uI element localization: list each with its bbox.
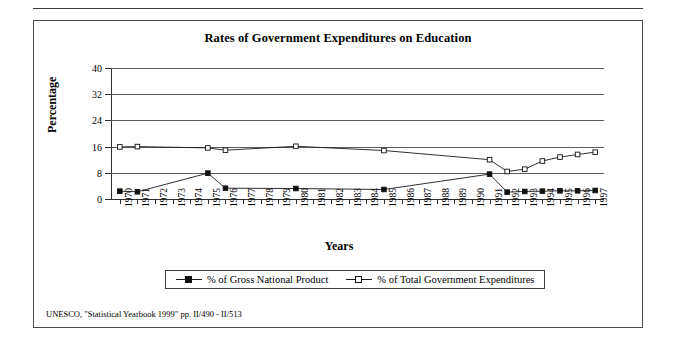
data-point-marker	[382, 148, 387, 153]
series-layer	[111, 68, 604, 199]
x-axis-tick	[437, 199, 438, 204]
x-axis-tick	[507, 199, 508, 204]
data-point-marker	[522, 189, 527, 194]
chart-legend: % of Gross National Product % of Total G…	[165, 270, 545, 289]
source-footnote: UNESCO, "Statistical Yearbook 1999" pp. …	[46, 309, 242, 319]
data-point-marker	[382, 187, 387, 192]
data-point-marker	[558, 189, 563, 194]
chart-title: Rates of Government Expenditures on Educ…	[34, 31, 642, 46]
x-axis-tick	[454, 199, 455, 204]
top-divider-rule	[33, 8, 643, 9]
x-axis-tick	[208, 199, 209, 204]
data-point-marker	[593, 188, 598, 193]
data-point-marker	[505, 169, 510, 174]
x-axis-tick	[225, 199, 226, 204]
x-axis-tick	[278, 199, 279, 204]
x-axis-tick	[525, 199, 526, 204]
data-point-marker	[522, 167, 527, 172]
data-point-marker	[118, 145, 123, 150]
data-point-marker	[294, 144, 299, 149]
y-axis-tick	[105, 199, 111, 200]
data-point-marker	[487, 172, 492, 177]
x-axis-tick	[296, 199, 297, 204]
y-axis-tick-label: 8	[97, 167, 102, 178]
open-square-marker-icon	[346, 275, 372, 284]
plot-area: 0816243240 19701971197219731974197519761…	[111, 68, 604, 199]
legend-label-total-gov-exp: % of Total Government Expenditures	[377, 274, 534, 285]
x-axis-tick	[120, 199, 121, 204]
x-axis-tick	[542, 199, 543, 204]
x-axis-tick	[595, 199, 596, 204]
data-point-marker	[294, 186, 299, 191]
data-point-marker	[575, 152, 580, 157]
x-axis-tick	[349, 199, 350, 204]
y-axis-tick-label: 24	[92, 115, 102, 126]
data-point-marker	[223, 186, 228, 191]
x-axis-tick	[419, 199, 420, 204]
legend-entry-total-gov-exp: % of Total Government Expenditures	[346, 274, 534, 285]
x-axis-tick	[173, 199, 174, 204]
x-axis-tick	[472, 199, 473, 204]
data-point-marker	[593, 150, 598, 155]
legend-entry-gnp: % of Gross National Product	[176, 274, 328, 285]
x-axis-tick	[243, 199, 244, 204]
x-axis-tick	[560, 199, 561, 204]
y-axis-tick-label: 32	[92, 89, 102, 100]
x-axis-tick	[366, 199, 367, 204]
data-point-marker	[487, 157, 492, 162]
data-point-marker	[118, 189, 123, 194]
data-point-marker	[206, 171, 211, 176]
figure-panel: Rates of Government Expenditures on Educ…	[33, 20, 643, 328]
x-axis-tick	[137, 199, 138, 204]
x-axis-tick	[402, 199, 403, 204]
data-point-marker	[540, 159, 545, 164]
x-axis-tick	[261, 199, 262, 204]
data-point-marker	[135, 144, 140, 149]
data-point-marker	[558, 155, 563, 160]
data-point-marker	[540, 189, 545, 194]
y-axis-title: Percentage	[45, 77, 60, 133]
data-point-marker	[575, 189, 580, 194]
x-axis-tick	[313, 199, 314, 204]
x-axis-tick	[384, 199, 385, 204]
x-axis-tick	[490, 199, 491, 204]
y-axis-tick-label: 16	[92, 141, 102, 152]
y-axis-tick-label: 40	[92, 63, 102, 74]
data-point-marker	[206, 146, 211, 151]
legend-label-gnp: % of Gross National Product	[207, 274, 328, 285]
data-point-marker	[223, 148, 228, 153]
x-axis-tick	[155, 199, 156, 204]
x-axis-tick	[331, 199, 332, 204]
x-axis-title: Years	[34, 239, 644, 254]
filled-square-marker-icon	[176, 275, 202, 284]
x-axis-tick	[190, 199, 191, 204]
y-axis-tick-label: 0	[97, 194, 102, 205]
x-axis-tick	[578, 199, 579, 204]
data-point-marker	[135, 189, 140, 194]
data-point-marker	[505, 190, 510, 195]
